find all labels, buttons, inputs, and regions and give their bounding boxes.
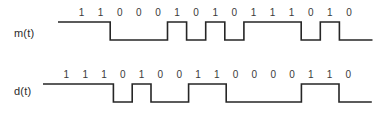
- signal-block-d: d(t) 1110100110000110: [0, 58, 375, 116]
- waveform-m: [0, 0, 375, 58]
- waveform-d: [0, 58, 375, 116]
- signal-block-m: m(t) 110001010111010: [0, 0, 375, 58]
- waveform-figure: m(t) 110001010111010 d(t) 11101001100001…: [0, 0, 375, 116]
